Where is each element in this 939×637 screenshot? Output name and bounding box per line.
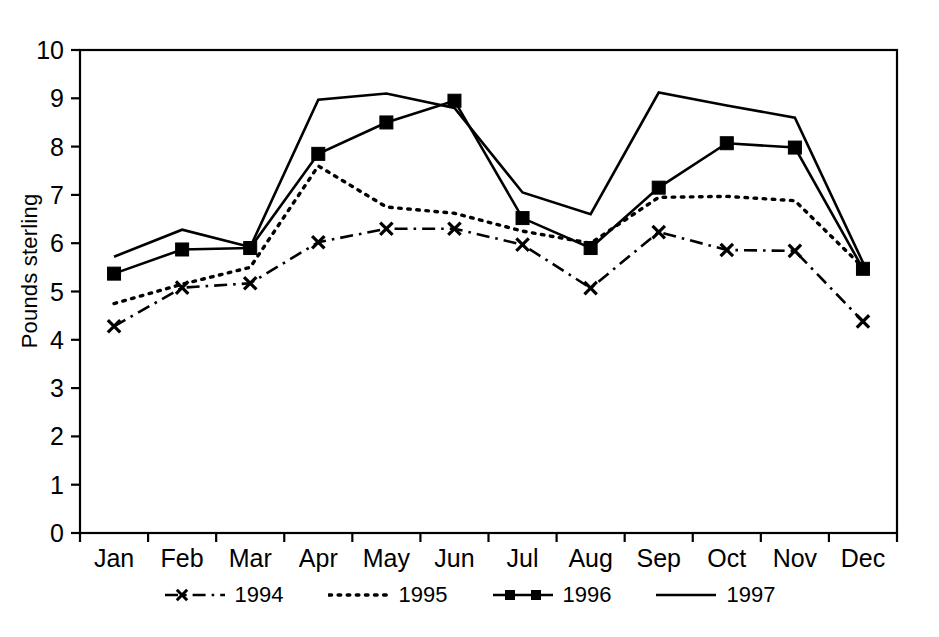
y-axis-tick-label: 6 (50, 229, 64, 257)
x-axis-tick-label: Feb (161, 544, 204, 572)
series-marker-1994 (789, 245, 801, 257)
series-line-1995 (114, 166, 863, 304)
series-marker-1996 (380, 116, 393, 129)
legend-label-1995: 1995 (399, 584, 448, 606)
x-axis-tick-label: May (363, 544, 411, 572)
legend-label-1997: 1997 (726, 584, 775, 606)
y-axis-tick-label: 5 (50, 278, 64, 306)
series-marker-1996 (652, 181, 665, 194)
plot-border (80, 50, 897, 533)
series-marker-1996 (720, 137, 733, 150)
series-marker-1994 (653, 226, 665, 238)
series-marker-1994 (584, 282, 596, 294)
series-marker-1994 (108, 320, 120, 332)
series-marker-1994 (516, 238, 528, 250)
legend-key-1997 (655, 587, 717, 603)
series-marker-1996 (788, 141, 801, 154)
series-marker-1996 (448, 94, 461, 107)
chart-legend: 1994199519961997 (0, 572, 939, 618)
legend-key-1996 (492, 587, 554, 603)
legend-item-1994[interactable]: 1994 (164, 584, 284, 606)
x-axis-tick-label: Dec (841, 544, 885, 572)
series-line-1994 (114, 229, 863, 327)
series-marker-1994 (857, 315, 869, 327)
legend-label-1994: 1994 (235, 584, 284, 606)
series-marker-1996 (856, 262, 869, 275)
y-axis-tick-label: 9 (50, 84, 64, 112)
y-axis-tick-label: 1 (50, 471, 64, 499)
y-axis-tick-label: 3 (50, 374, 64, 402)
legend-item-1997[interactable]: 1997 (655, 584, 775, 606)
series-marker-1996 (108, 267, 121, 280)
legend-label-1996: 1996 (563, 584, 612, 606)
series-line-1996 (114, 101, 863, 274)
y-axis-tick-label: 0 (50, 519, 64, 547)
series-marker-1996 (584, 242, 597, 255)
x-axis-tick-label: Jan (94, 544, 134, 572)
chart-figure: Pounds sterling 012345678910JanFebMarApr… (0, 0, 939, 637)
x-axis-tick-label: Sep (636, 544, 680, 572)
series-marker-1996 (176, 243, 189, 256)
legend-item-1996[interactable]: 1996 (492, 584, 612, 606)
x-axis-tick-label: Mar (229, 544, 272, 572)
y-axis-tick-label: 10 (36, 36, 64, 64)
line-chart-plot: 012345678910JanFebMarAprMayJunJulAugSepO… (0, 0, 939, 637)
x-axis-tick-label: Aug (568, 544, 612, 572)
legend-key-1994 (164, 587, 226, 603)
y-axis-tick-label: 4 (50, 326, 64, 354)
legend-item-1995[interactable]: 1995 (328, 584, 448, 606)
x-axis-tick-label: Jul (507, 544, 539, 572)
series-marker-1994 (380, 223, 392, 235)
legend-key-1995 (328, 587, 390, 603)
y-axis-tick-label: 2 (50, 422, 64, 450)
x-axis-tick-label: Nov (773, 544, 818, 572)
x-axis-tick-label: Apr (299, 544, 338, 572)
y-axis-tick-label: 8 (50, 133, 64, 161)
x-axis-tick-label: Oct (707, 544, 746, 572)
series-marker-1996 (516, 212, 529, 225)
y-axis-tick-label: 7 (50, 181, 64, 209)
x-axis-tick-label: Jun (434, 544, 474, 572)
series-marker-1996 (312, 147, 325, 160)
